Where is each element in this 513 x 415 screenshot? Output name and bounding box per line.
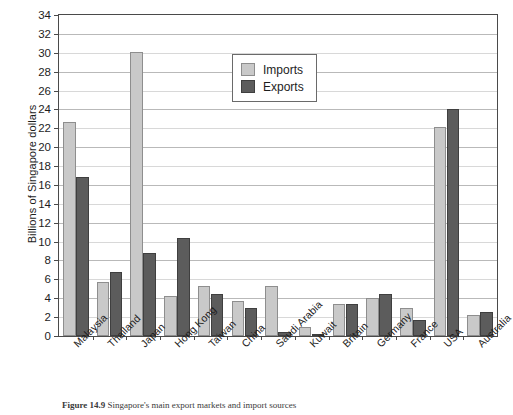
y-axis-tick-label: 8 (45, 254, 51, 266)
x-axis-tick (227, 336, 228, 340)
y-axis-tick-label: 4 (45, 292, 51, 304)
y-axis-tick-label: 26 (38, 85, 51, 97)
y-axis-tick-label: 6 (45, 273, 51, 285)
legend-label: Exports (263, 80, 304, 94)
bar-chart-figure: Billions of Singapore dollars 0246810121… (0, 0, 513, 415)
bar-group (97, 15, 123, 336)
bar-group (366, 15, 392, 336)
caption-figure-number: Figure 14.9 (62, 400, 108, 410)
bar-imports-malaysia (63, 122, 76, 336)
x-axis-tick (126, 336, 127, 340)
y-axis-tick-label: 32 (38, 28, 51, 40)
x-axis-tick (463, 336, 464, 340)
legend-swatch-imports-icon (241, 63, 255, 76)
y-axis-tick (54, 242, 59, 243)
bar-exports-usa (447, 109, 460, 336)
bar-imports-usa (434, 127, 447, 336)
y-axis-title: Billions of Singapore dollars (26, 74, 38, 274)
y-axis-tick (54, 72, 59, 73)
y-axis-tick (54, 204, 59, 205)
legend-item-imports: Imports (241, 61, 304, 78)
legend-swatch-exports-icon (241, 80, 255, 93)
y-axis-tick (54, 147, 59, 148)
y-axis-tick (54, 185, 59, 186)
y-axis-tick (54, 128, 59, 129)
bar-group (400, 15, 426, 336)
y-axis-tick-label: 12 (38, 217, 51, 229)
y-axis-tick-label: 30 (38, 47, 51, 59)
y-axis-tick (54, 34, 59, 35)
y-axis-tick (54, 15, 59, 16)
y-axis-tick-label: 18 (38, 160, 51, 172)
bar-exports-malaysia (76, 177, 89, 336)
legend-item-exports: Exports (241, 78, 304, 95)
bar-group (434, 15, 460, 336)
x-axis-tick (329, 336, 330, 340)
y-axis-tick (54, 298, 59, 299)
bar-imports-saudi-arabia (265, 286, 278, 336)
bar-group (467, 15, 493, 336)
bar-exports-hong-kong (177, 238, 190, 336)
y-axis-tick (54, 317, 59, 318)
y-axis-tick (54, 53, 59, 54)
y-axis-tick (54, 260, 59, 261)
y-axis-tick (54, 109, 59, 110)
bar-imports-hong-kong (164, 296, 177, 336)
x-axis-tick (430, 336, 431, 340)
y-axis-tick-label: 28 (38, 66, 51, 78)
x-axis-tick (362, 336, 363, 340)
bar-imports-china (232, 301, 245, 336)
bar-group (130, 15, 156, 336)
legend-label: Imports (263, 63, 303, 77)
bar-imports-germany (366, 298, 379, 336)
y-axis-tick-label: 0 (45, 330, 51, 342)
x-axis-tick (160, 336, 161, 340)
x-axis-tick (261, 336, 262, 340)
bar-imports-australia (467, 315, 480, 336)
bar-group (164, 15, 190, 336)
y-axis-tick (54, 223, 59, 224)
y-axis-tick (54, 279, 59, 280)
caption-text: Singapore's main export markets and impo… (108, 400, 297, 410)
y-axis-tick-label: 10 (38, 236, 51, 248)
x-axis-tick (93, 336, 94, 340)
bar-group (198, 15, 224, 336)
y-axis-tick-label: 24 (38, 103, 51, 115)
y-axis-tick (54, 166, 59, 167)
x-axis-tick (396, 336, 397, 340)
y-axis-tick-label: 14 (38, 198, 51, 210)
bar-group (63, 15, 89, 336)
y-axis-tick-label: 2 (45, 311, 51, 323)
y-axis-tick (54, 91, 59, 92)
y-axis-tick-label: 22 (38, 122, 51, 134)
y-axis-tick-label: 20 (38, 141, 51, 153)
x-axis-tick (295, 336, 296, 340)
y-axis-tick (54, 336, 59, 337)
bar-imports-japan (130, 52, 143, 336)
y-axis-tick-label: 34 (38, 9, 51, 21)
bar-imports-britain (333, 304, 346, 336)
chart-legend: ImportsExports (232, 54, 317, 102)
bar-group (333, 15, 359, 336)
x-axis-tick (194, 336, 195, 340)
figure-caption: Figure 14.9 Singapore's main export mark… (62, 400, 502, 410)
y-axis-tick-label: 16 (38, 179, 51, 191)
